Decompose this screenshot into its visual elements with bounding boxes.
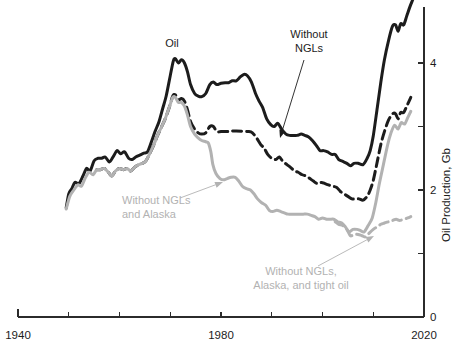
x-axis-tick-label: 1940 [5, 329, 31, 341]
annotation-label-line: Oil [165, 37, 178, 49]
annotation-label: Without NGLs,Alaska, and tight oil [253, 265, 348, 291]
y-axis-tick-label: 4 [430, 57, 437, 69]
x-axis-tick-label: 2020 [411, 329, 437, 341]
annotation-label: WithoutNGLs [290, 28, 327, 54]
annotation-label-line: Alaska, and tight oil [253, 279, 348, 291]
annotation-label-line: Without NGLs [122, 194, 191, 206]
y-axis-tick-label: 2 [430, 184, 436, 196]
annotation-label: Oil [165, 37, 178, 49]
annotation-label-line: NGLs [295, 42, 324, 54]
annotation-label-line: and Alaska [122, 208, 177, 220]
x-axis-tick-label: 1980 [208, 329, 234, 341]
y-axis-title: Oil Production, Gb [440, 148, 452, 242]
chart-background [0, 0, 457, 343]
chart-container: OilWithoutNGLsWithout NGLsand AlaskaWith… [0, 0, 457, 343]
annotation-label-line: Without [290, 28, 327, 40]
annotation-oil-label: Oil [165, 37, 178, 49]
y-axis-tick-label: 0 [430, 311, 436, 323]
oil-production-line-chart: OilWithoutNGLsWithout NGLsand AlaskaWith… [0, 0, 457, 343]
annotation-label-line: Without NGLs, [265, 265, 337, 277]
